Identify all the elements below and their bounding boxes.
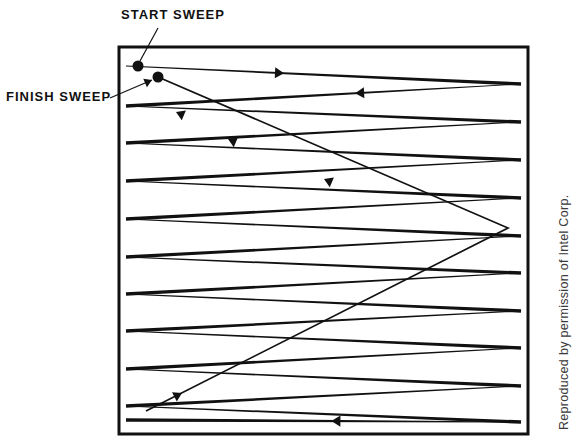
scan-line-5: [126, 219, 521, 238]
vertical-retrace-arrow-1: [172, 388, 184, 401]
flyback-line-5: [126, 236, 521, 259]
vertical-retrace-arrow-4: [174, 107, 186, 120]
credit-line: Reproduced by permission of Intel Corp.: [558, 195, 571, 430]
vertical-retrace-line: [146, 77, 508, 411]
scan-line-arrow-1: [275, 67, 284, 79]
start-sweep-leader: [140, 28, 158, 61]
scan-line-2: [126, 106, 521, 124]
raster-scan-diagram: [0, 0, 578, 447]
vertical-retrace-arrow-1-head: [172, 388, 184, 401]
scan-line-9: [126, 369, 521, 388]
figure-canvas: START SWEEP FINISH SWEEP Reproduced by p…: [0, 0, 578, 447]
start-sweep-dot: [133, 61, 144, 72]
finish-sweep-dot: [153, 72, 164, 83]
flyback-line-8: [126, 348, 521, 371]
flyback-line-3: [126, 160, 521, 183]
scan-line-7: [126, 294, 521, 313]
flyback-arrow-1: [355, 87, 365, 99]
flyback-arrow-10: [331, 415, 340, 426]
flyback-line-6: [126, 273, 521, 296]
screen-frame: [119, 47, 528, 434]
flyback-line-2: [126, 122, 521, 145]
vertical-retrace-arrow-2: [322, 174, 334, 187]
flyback-line-1: [126, 84, 521, 108]
label-finish-sweep: FINISH SWEEP: [6, 90, 111, 103]
scan-line-3: [126, 143, 521, 162]
scan-line-arrow-1-head: [275, 67, 284, 79]
scan-line-1: [126, 66, 521, 86]
vertical-retrace-arrow-4-head: [174, 107, 186, 120]
scan-line-4: [126, 181, 521, 200]
scan-line-6: [126, 257, 521, 275]
scan-line-8: [126, 331, 521, 350]
flyback-arrow-10-head: [331, 415, 340, 426]
flyback-line-9: [126, 386, 521, 408]
flyback-line-4: [126, 198, 521, 221]
finish-sweep-leader-arrow: [143, 76, 154, 88]
finish-sweep-leader-arrow-head: [143, 76, 154, 88]
label-start-sweep: START SWEEP: [121, 8, 225, 21]
vertical-retrace-arrow-2-head: [322, 174, 334, 187]
flyback-arrow-1-head: [355, 87, 365, 99]
